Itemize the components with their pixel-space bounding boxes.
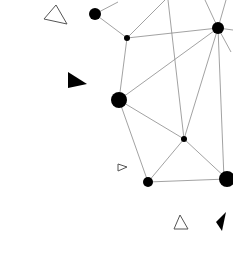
network-graph	[0, 0, 233, 279]
edge-line	[119, 38, 127, 100]
edge-line	[148, 179, 227, 182]
edge-line	[95, 14, 127, 38]
edge-line	[119, 100, 148, 182]
outline-triangle-icon	[174, 215, 188, 229]
filled-triangle-icon	[216, 212, 226, 231]
filled-triangle-icon	[68, 72, 87, 88]
edge-line	[218, 28, 224, 179]
edge-line	[168, 0, 184, 139]
node-dot-icon	[111, 92, 127, 108]
edge-line	[184, 139, 227, 179]
edge-line	[148, 139, 184, 182]
node-dot-icon	[89, 8, 101, 20]
node-dot-icon	[124, 35, 130, 41]
edge-line	[184, 28, 218, 139]
outline-triangle-icon	[118, 164, 127, 171]
node-dot-icon	[143, 177, 153, 187]
node-dot-icon	[212, 22, 224, 34]
edge-line	[119, 100, 184, 139]
edge-line	[119, 28, 218, 100]
node-dot-icon	[181, 136, 187, 142]
outline-triangle-icon	[44, 5, 67, 24]
network-illustration	[0, 0, 233, 279]
edge-line	[127, 0, 165, 38]
